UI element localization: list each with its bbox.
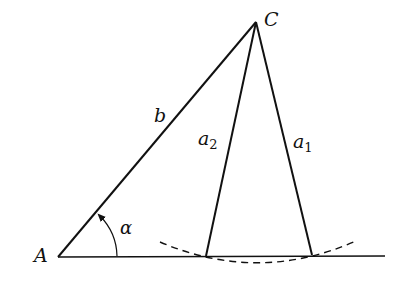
baseline [58, 256, 385, 257]
side-b-line [58, 22, 256, 257]
side-a1-label-main: a [293, 130, 304, 152]
side-a1-label-sub: 1 [304, 140, 312, 155]
triangle-diagram: A C b a2 a1 α [0, 0, 407, 284]
side-a2-label-main: a [198, 127, 209, 149]
side-a2-label: a2 [198, 127, 218, 152]
angle-alpha-arc [100, 216, 117, 256]
vertex-c-label: C [264, 8, 279, 30]
vertex-a-label: A [32, 244, 48, 266]
side-b-label: b [154, 104, 166, 126]
side-a1-label: a1 [293, 130, 313, 155]
dashed-circle-arc [160, 241, 356, 263]
angle-alpha-label: α [120, 217, 132, 238]
side-a2-label-sub: 2 [209, 137, 217, 152]
